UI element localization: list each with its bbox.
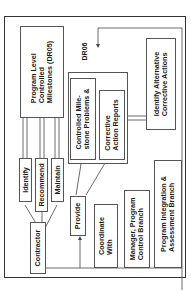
recommend-box: Recommend: [35, 158, 48, 212]
recommend-text: Recommend: [38, 163, 46, 206]
maintain-box: Maintain: [51, 158, 64, 202]
corrective-action-box: Corrective Action Reports: [99, 90, 125, 160]
manager-text: Manager, Program Control Branch: [129, 198, 145, 261]
program-level-box: Program Level Controlled Milestones (DR0…: [20, 26, 64, 118]
identify-alternative-box: Identify Alternative Corrective Actions: [146, 38, 176, 130]
provide-text: Provide: [74, 203, 82, 229]
program-level-text: Program Level Controlled Milestones (DR0…: [30, 41, 54, 103]
program-integration-text: Program Integration & Assessment Branch: [160, 176, 176, 252]
dr06-label: DR06: [81, 43, 88, 61]
identify-text: Identify: [22, 167, 30, 193]
maintain-text: Maintain: [54, 165, 62, 194]
contractor-text: Contractor: [34, 230, 42, 267]
manager-box: Manager, Program Control Branch: [124, 190, 150, 268]
coordinate-with-box: Coordinate With: [94, 204, 118, 268]
identify-alternative-text: Identify Alternative Corrective Actions: [153, 52, 169, 116]
program-integration-box: Program Integration & Assessment Branch: [154, 160, 182, 268]
controlled-milestone-text: Controlled Mile- stone Problems &: [75, 88, 91, 149]
provide-box: Provide: [70, 196, 86, 236]
coordinate-with-text: Coordinate With: [98, 217, 114, 255]
contractor-box: Contractor: [30, 222, 46, 274]
identify-box: Identify: [19, 158, 32, 202]
controlled-milestone-box: Controlled Mile- stone Problems &: [70, 78, 96, 160]
corrective-action-text: Corrective Action Reports: [104, 99, 120, 151]
